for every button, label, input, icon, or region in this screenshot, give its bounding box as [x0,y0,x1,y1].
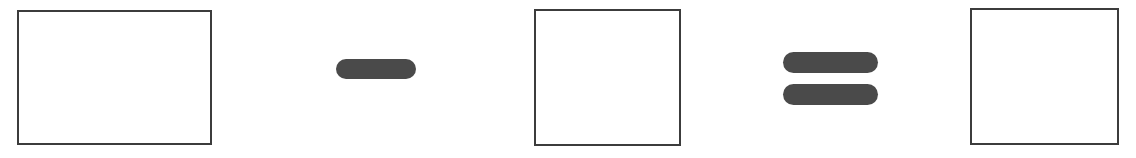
answer-box-difference[interactable] [970,8,1119,145]
answer-box-minuend[interactable] [17,10,212,145]
equals-bar-bottom [783,84,878,105]
equals-bar-top [783,52,878,73]
equation-canvas [0,0,1136,158]
minus-bar [336,59,416,79]
answer-box-subtrahend[interactable] [534,9,681,146]
